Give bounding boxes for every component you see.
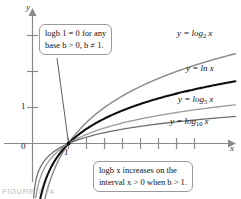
callout-zero-line-1: logb 1 = 0 for any	[45, 28, 106, 40]
curve-label-log2: y = log2 x	[177, 28, 212, 39]
curve-label-log5-text: y = log	[178, 94, 204, 104]
callout-increasing-line-2: interval x > 0 when b > 1.	[99, 177, 187, 189]
callout-increasing-property: logb x increases on the interval x > 0 w…	[93, 161, 193, 192]
logarithm-figure: y x 1 0 1 logb 1 = 0 for any base b > 0,…	[0, 0, 241, 199]
callout-zero-property: logb 1 = 0 for any base b > 0, b ≠ 1.	[39, 24, 112, 55]
curve-label-log5-arg: x	[209, 94, 213, 104]
curve-label-log5: y = log5 x	[178, 94, 213, 105]
curve-label-ln-text: y = ln x	[186, 63, 214, 73]
callout-leader-line	[57, 58, 69, 143]
x-axis-label: x	[230, 143, 234, 153]
y-tick-label-1: 1	[21, 101, 26, 111]
intersection-point	[67, 142, 71, 146]
y-axis-label: y	[26, 2, 30, 12]
curve-label-log2-subscript: 2	[203, 32, 206, 39]
figure-caption: FIGURE 7.24	[2, 187, 54, 196]
curve-label-ln: y = ln x	[186, 63, 214, 73]
curve-label-log2-arg: x	[208, 28, 212, 38]
curve-label-log2-text: y = log	[177, 28, 203, 38]
x-tick-label-1: 1	[64, 147, 69, 157]
curve-label-log10: y = log10 x	[170, 116, 208, 127]
callout-zero-line-2: base b > 0, b ≠ 1.	[45, 40, 106, 52]
curve-label-log10-arg: x	[204, 116, 208, 126]
curve-label-log10-text: y = log	[170, 116, 196, 126]
callout-increasing-line-1: logb x increases on the	[99, 165, 187, 177]
curve-label-log10-subscript: 10	[196, 120, 203, 127]
curve-label-log5-subscript: 5	[204, 98, 207, 105]
origin-label: 0	[21, 141, 26, 151]
